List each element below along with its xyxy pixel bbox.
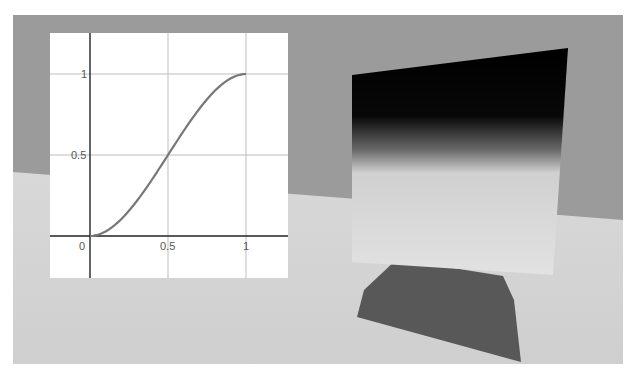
x-tick-0.5: 0.5 — [160, 240, 175, 252]
gradient-panel — [352, 48, 568, 275]
smoothstep-plot: 0 0.5 1 0.5 1 — [50, 33, 288, 278]
y-tick-0.5: 0.5 — [71, 149, 86, 161]
y-tick-1: 1 — [81, 68, 87, 80]
x-tick-1: 1 — [243, 240, 249, 252]
x-tick-origin: 0 — [79, 240, 85, 252]
chart-inset: 0 0.5 1 0.5 1 — [50, 33, 288, 278]
